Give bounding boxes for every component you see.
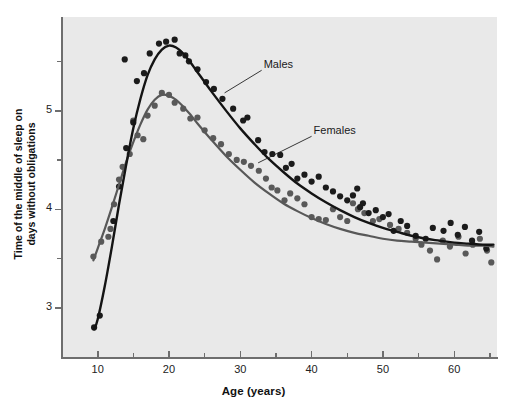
data-point (434, 256, 440, 262)
plot-canvas (0, 0, 507, 406)
data-point (360, 200, 366, 206)
x-tick-label: 30 (225, 363, 255, 375)
x-tick-label: 40 (297, 363, 327, 375)
x-axis-line (61, 357, 498, 359)
data-point (448, 220, 454, 226)
data-point (163, 39, 169, 45)
series-label-males: Males (264, 58, 293, 70)
data-point (440, 228, 446, 234)
y-tick-minor (57, 258, 62, 259)
data-point (344, 197, 350, 203)
data-point (455, 232, 461, 238)
x-tick-major (454, 351, 455, 357)
data-point (301, 201, 307, 207)
data-point (248, 163, 254, 169)
data-point (218, 141, 224, 147)
data-point (350, 192, 356, 198)
data-point (301, 172, 307, 178)
y-axis-title-line-1: Time of the middle of sleep on (12, 89, 25, 279)
fit-curve-females (93, 95, 493, 261)
y-axis-title: Time of the middle of sleep ondays witho… (12, 89, 38, 279)
data-point (308, 178, 314, 184)
fit-curve-males (94, 46, 493, 330)
data-point (330, 188, 336, 194)
x-tick-minor (133, 353, 134, 357)
y-tick-minor (57, 61, 62, 62)
y-tick-label: 3 (32, 300, 52, 312)
data-point (350, 200, 356, 206)
data-point (172, 37, 178, 43)
y-tick-major (55, 209, 62, 210)
x-tick-minor (489, 353, 490, 357)
x-tick-minor (347, 353, 348, 357)
x-tick-minor (204, 353, 205, 357)
data-point (269, 184, 275, 190)
x-tick-major (168, 351, 169, 357)
data-point (241, 159, 247, 165)
x-tick-minor (62, 353, 63, 357)
x-tick-label: 20 (154, 363, 184, 375)
y-tick-major (55, 110, 62, 111)
data-point (255, 137, 261, 143)
data-point (373, 207, 379, 213)
data-point (256, 168, 262, 174)
x-tick-label: 50 (368, 363, 398, 375)
y-axis-line (61, 17, 63, 357)
data-point (234, 157, 240, 163)
x-tick-major (311, 351, 312, 357)
x-tick-label: 60 (439, 363, 469, 375)
data-point (427, 247, 433, 253)
data-point (289, 161, 295, 167)
x-tick-major (97, 351, 98, 357)
data-point (134, 78, 140, 84)
y-tick-minor (57, 159, 62, 160)
data-point (230, 106, 236, 112)
data-point (387, 222, 393, 228)
x-tick-minor (275, 353, 276, 357)
data-point (463, 250, 469, 256)
annotation-leader-line (225, 70, 262, 93)
data-point (283, 165, 289, 171)
x-tick-minor (418, 353, 419, 357)
data-point (274, 187, 280, 193)
series-males (91, 37, 489, 331)
x-tick-major (382, 351, 383, 357)
data-point (105, 234, 111, 240)
data-point (337, 214, 343, 220)
data-point (141, 70, 147, 76)
data-point (488, 259, 494, 265)
data-point (107, 226, 113, 232)
x-tick-major (240, 351, 241, 357)
series-label-females: Females (314, 124, 356, 136)
data-point (219, 96, 225, 102)
chart-figure: 345 102030405060 Time of the middle of s… (0, 0, 507, 406)
data-point (366, 210, 372, 216)
data-point (316, 174, 322, 180)
data-point (263, 176, 269, 182)
data-point (354, 185, 360, 191)
data-point (462, 224, 468, 230)
y-tick-major (55, 307, 62, 308)
data-point (287, 190, 293, 196)
data-point (323, 184, 329, 190)
data-point (122, 56, 128, 62)
data-point (294, 195, 300, 201)
data-point (404, 223, 410, 229)
data-point (476, 229, 482, 235)
data-point (477, 236, 483, 242)
data-point (380, 214, 386, 220)
data-point (156, 41, 162, 47)
x-tick-label: 10 (83, 363, 113, 375)
data-point (344, 218, 350, 224)
data-point (398, 218, 404, 224)
data-point (337, 193, 343, 199)
data-point (140, 136, 146, 142)
data-point (430, 225, 436, 231)
data-point (386, 211, 392, 217)
x-axis-title: Age (years) (0, 385, 507, 397)
data-point (147, 50, 153, 56)
data-point (244, 114, 250, 120)
y-axis-title-line-2: days without obligations (25, 89, 38, 279)
